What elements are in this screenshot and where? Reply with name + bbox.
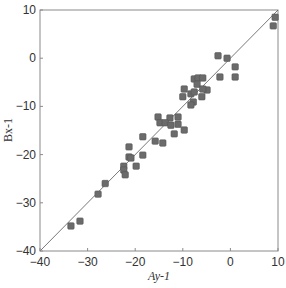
y-tick-label: 10 bbox=[23, 3, 37, 17]
data-point bbox=[95, 191, 101, 197]
data-point bbox=[160, 140, 166, 146]
data-point bbox=[102, 180, 108, 186]
data-point bbox=[175, 121, 181, 127]
data-point bbox=[122, 172, 128, 178]
data-point bbox=[68, 223, 74, 229]
x-tick-label: −30 bbox=[77, 255, 98, 269]
data-point bbox=[232, 74, 238, 80]
data-point bbox=[270, 23, 276, 29]
data-point bbox=[181, 86, 187, 92]
x-tick-label: 0 bbox=[227, 255, 234, 269]
data-point bbox=[180, 94, 186, 100]
data-point bbox=[175, 114, 181, 120]
x-axis-title: Ay-1 bbox=[147, 269, 170, 283]
data-point bbox=[168, 122, 174, 128]
data-point bbox=[126, 144, 132, 150]
data-point bbox=[171, 131, 177, 137]
data-point bbox=[272, 14, 278, 20]
data-point bbox=[194, 81, 200, 87]
data-point bbox=[140, 152, 146, 158]
data-point bbox=[77, 218, 83, 224]
y-axis-title: Bx-1 bbox=[1, 118, 15, 142]
scatter-chart: −40−30−20−10010 100−10−20−30−40 Ay-1 Bx-… bbox=[0, 0, 286, 288]
data-point bbox=[215, 53, 221, 59]
y-tick-label: −40 bbox=[16, 244, 37, 258]
data-point bbox=[128, 155, 134, 161]
data-point bbox=[140, 134, 146, 140]
data-point bbox=[224, 55, 230, 61]
data-point bbox=[188, 102, 194, 108]
data-point bbox=[199, 94, 205, 100]
data-point bbox=[133, 163, 139, 169]
y-tick-label: −10 bbox=[16, 99, 37, 113]
x-tick-label: −20 bbox=[125, 255, 146, 269]
y-tick-label: −30 bbox=[16, 196, 37, 210]
y-tick-label: 0 bbox=[29, 51, 36, 65]
data-point bbox=[217, 74, 223, 80]
x-tick-label: 10 bbox=[271, 255, 285, 269]
x-tick-label: −10 bbox=[173, 255, 194, 269]
data-point bbox=[232, 64, 238, 70]
y-axis-ticks: 100−10−20−30−40 bbox=[16, 3, 43, 258]
data-point bbox=[152, 138, 158, 144]
data-point bbox=[200, 86, 206, 92]
data-point bbox=[200, 75, 206, 81]
y-tick-label: −20 bbox=[16, 148, 37, 162]
data-point bbox=[155, 114, 161, 120]
data-point bbox=[191, 89, 197, 95]
data-point bbox=[181, 127, 187, 133]
